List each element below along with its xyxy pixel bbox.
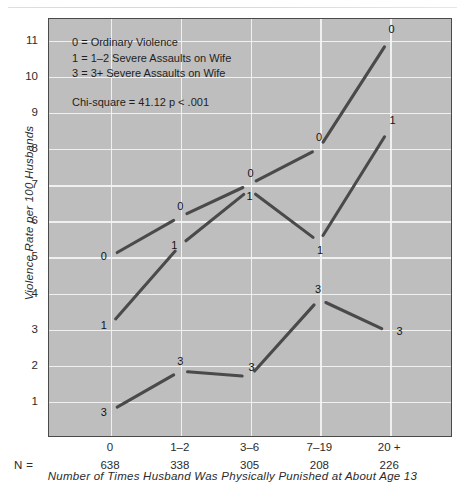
point-label-severe-assaults-3-plus-2: 3 — [249, 361, 255, 373]
point-label-severe-assaults-3-plus-4: 3 — [396, 325, 402, 337]
x-axis-tick-labels: 01–23–67–1920 + — [48, 441, 452, 459]
y-tick-1: 1 — [32, 395, 38, 407]
y-tick-7: 7 — [32, 178, 38, 190]
y-axis-tick-labels: 1234567891011 — [0, 18, 44, 437]
point-label-severe-assaults-1-2-2: 1 — [247, 190, 253, 202]
point-label-ordinary-violence-4: 0 — [388, 23, 394, 35]
series-segment-severe-assaults-3-plus — [188, 372, 243, 376]
series-segment-ordinary-violence — [117, 220, 173, 252]
y-tick-4: 4 — [32, 287, 38, 299]
y-tick-5: 5 — [32, 250, 38, 262]
point-label-severe-assaults-1-2-1: 1 — [171, 239, 177, 251]
plot-area: 0 = Ordinary Violence 1 = 1–2 Severe Ass… — [48, 18, 452, 437]
y-tick-2: 2 — [32, 359, 38, 371]
point-label-ordinary-violence-1: 0 — [177, 200, 183, 212]
point-label-severe-assaults-3-plus-0: 3 — [101, 406, 107, 418]
y-tick-6: 6 — [32, 214, 38, 226]
x-tick-3: 7–19 — [307, 441, 333, 453]
scan-artifact-line — [8, 7, 457, 8]
series-lines: 000001111133333 — [49, 19, 451, 436]
series-segment-severe-assaults-1-2 — [116, 251, 176, 319]
point-label-ordinary-violence-0: 0 — [101, 250, 107, 262]
series-segment-severe-assaults-3-plus — [326, 302, 382, 328]
point-label-severe-assaults-1-2-0: 1 — [101, 319, 107, 331]
point-label-severe-assaults-3-plus-3: 3 — [315, 283, 321, 295]
x-tick-0: 0 — [107, 441, 113, 453]
y-tick-8: 8 — [32, 142, 38, 154]
series-segment-severe-assaults-3-plus — [117, 375, 173, 407]
y-tick-9: 9 — [32, 106, 38, 118]
x-tick-4: 20 + — [378, 441, 401, 453]
chart-figure: Violence Rate per 100 Husbands 123456789… — [0, 0, 465, 487]
y-tick-10: 10 — [25, 70, 38, 82]
x-axis-title: Number of Times Husband Was Physically P… — [0, 470, 465, 482]
point-label-severe-assaults-1-2-4: 1 — [389, 114, 395, 126]
y-tick-11: 11 — [26, 34, 38, 46]
x-tick-2: 3–6 — [240, 441, 259, 453]
series-segment-ordinary-violence — [256, 152, 312, 181]
y-tick-3: 3 — [32, 323, 38, 335]
point-label-severe-assaults-3-plus-1: 3 — [177, 355, 183, 367]
series-segment-severe-assaults-1-2 — [256, 194, 314, 237]
point-label-ordinary-violence-3: 0 — [316, 131, 322, 143]
series-segment-severe-assaults-1-2 — [323, 137, 385, 236]
series-segment-severe-assaults-3-plus — [255, 305, 314, 371]
point-label-ordinary-violence-2: 0 — [248, 167, 254, 179]
x-tick-1: 1–2 — [170, 441, 189, 453]
point-label-severe-assaults-1-2-3: 1 — [317, 244, 323, 256]
series-segment-ordinary-violence — [323, 47, 384, 142]
